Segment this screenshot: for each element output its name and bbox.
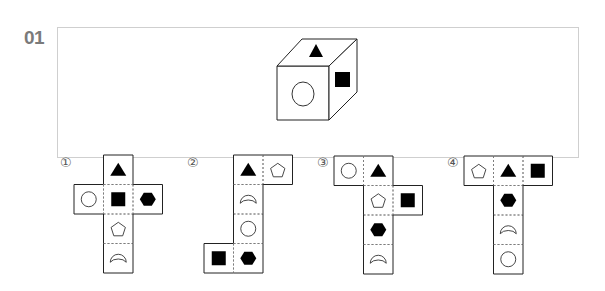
net-cell xyxy=(334,156,364,186)
net-cell xyxy=(494,156,524,186)
net-cell xyxy=(364,156,394,186)
option-label-3[interactable]: ③ xyxy=(317,155,329,170)
option-label-2[interactable]: ② xyxy=(187,155,199,170)
net-cell xyxy=(364,245,394,275)
filled-square-icon xyxy=(531,164,545,178)
net-cell xyxy=(104,155,134,185)
option-net-3[interactable] xyxy=(334,156,423,274)
net-cell xyxy=(234,214,264,244)
net-cell xyxy=(74,185,104,215)
net-cell xyxy=(133,185,163,215)
net-cell xyxy=(104,185,134,215)
net-cell xyxy=(494,186,524,216)
filled-square-icon xyxy=(335,72,350,87)
option-net-2[interactable] xyxy=(204,155,293,273)
cube-figure xyxy=(0,0,605,291)
net-cell xyxy=(364,186,394,216)
net-cell xyxy=(234,185,264,215)
option-net-1[interactable] xyxy=(74,155,163,273)
cube-front-face xyxy=(277,66,329,120)
net-cell xyxy=(364,215,394,245)
net-cell xyxy=(234,244,264,274)
net-cell xyxy=(234,155,264,185)
net-cell xyxy=(104,214,134,244)
filled-square-icon xyxy=(401,193,415,207)
option-label-4[interactable]: ④ xyxy=(447,155,459,170)
net-cell xyxy=(494,215,524,245)
net-cell xyxy=(393,186,423,216)
filled-square-icon xyxy=(212,251,226,265)
net-cell xyxy=(204,244,234,274)
cube xyxy=(277,39,357,120)
net-cell xyxy=(104,244,134,274)
net-cell xyxy=(523,156,553,186)
option-label-1[interactable]: ① xyxy=(60,155,72,170)
option-net-4[interactable] xyxy=(464,156,553,274)
net-cell xyxy=(494,245,524,275)
filled-square-icon xyxy=(111,192,125,206)
net-cell xyxy=(263,155,293,185)
net-cell xyxy=(464,156,494,186)
